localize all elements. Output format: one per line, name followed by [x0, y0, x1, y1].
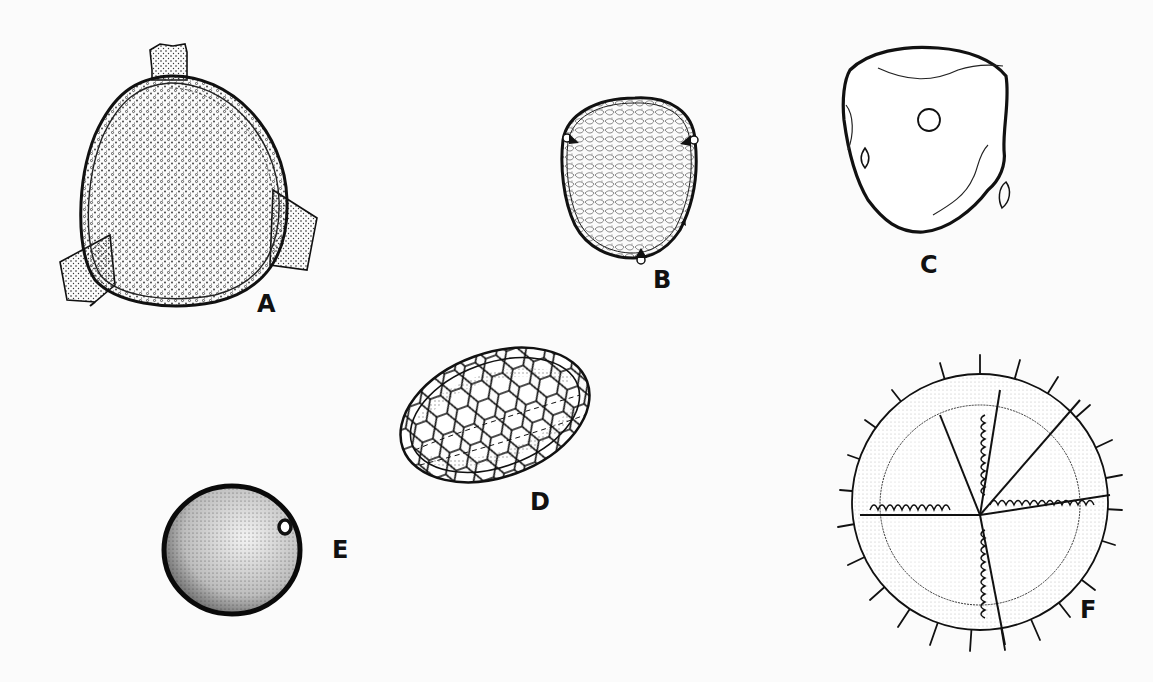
figure-a-trilobed-spore: A: [55, 40, 325, 315]
figure-c-smooth-grain: C: [838, 40, 1018, 280]
figure-f-label: F: [1080, 598, 1096, 622]
figure-f-spiny-spore: F: [830, 345, 1130, 660]
figure-e-label: E: [332, 538, 348, 562]
figure-d-drawing: [390, 340, 600, 490]
figure-e-drawing: [160, 480, 310, 625]
figure-d-reticulate-grain: D: [390, 340, 600, 520]
figure-b-pollen-grain: B: [555, 90, 715, 290]
figure-e-spherical-grain: E: [160, 480, 360, 630]
figure-b-drawing: [555, 90, 715, 270]
figure-d-label: D: [530, 490, 550, 514]
figure-c-drawing: [838, 40, 1018, 250]
figure-a-drawing: [55, 40, 325, 315]
figure-a-label: A: [257, 292, 276, 316]
figure-c-label: C: [920, 253, 938, 277]
figure-b-label: B: [653, 268, 671, 292]
specimen-plate: A B: [0, 0, 1153, 682]
